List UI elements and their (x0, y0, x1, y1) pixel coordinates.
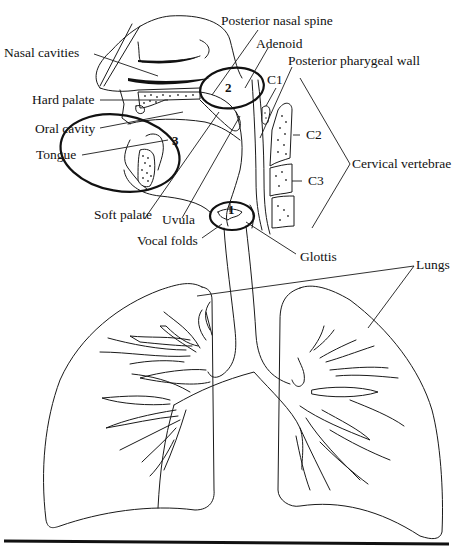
region-circle-2 (198, 64, 267, 113)
hard-palate-bone (136, 92, 200, 114)
label-c2: C2 (306, 127, 322, 142)
label-soft-palate: Soft palate (94, 207, 152, 222)
label-nasal-cavities: Nasal cavities (4, 45, 79, 60)
region-number-1: 1 (228, 202, 235, 217)
left-bronchial-tree (292, 326, 404, 490)
label-cervical-vertebrae: Cervical vertebrae (352, 156, 451, 171)
label-tongue: Tongue (36, 147, 76, 162)
label-vocal-folds: Vocal folds (137, 233, 198, 248)
region-number-2: 2 (225, 80, 232, 95)
right-bronchial-tree (100, 302, 212, 476)
label-c1: C1 (267, 72, 283, 87)
left-lung (278, 286, 443, 539)
label-adenoid: Adenoid (256, 36, 303, 51)
label-glottis: Glottis (300, 249, 337, 264)
bottom-rule (4, 541, 449, 544)
label-oral-cavity: Oral cavity (35, 121, 96, 136)
label-c3: C3 (308, 173, 324, 188)
region-number-3: 3 (172, 133, 179, 148)
soft-palate-shape (200, 92, 240, 131)
label-lungs: Lungs (416, 257, 450, 272)
label-posterior-nasal-spine: Posterior nasal spine (221, 13, 333, 28)
label-uvula: Uvula (162, 212, 195, 227)
anatomy-diagram: 2 3 1 (0, 0, 462, 552)
leader-lines (82, 30, 414, 328)
label-hard-palate: Hard palate (32, 92, 95, 107)
trachea (158, 226, 303, 508)
right-lung (44, 284, 215, 528)
label-posterior-pharyngeal-wall: Posterior pharygeal wall (288, 53, 420, 68)
